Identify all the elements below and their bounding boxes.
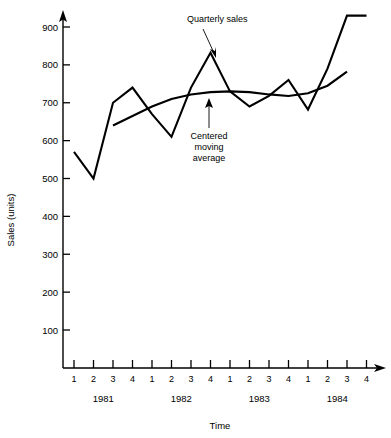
- x-tick-label-15: 4: [364, 374, 369, 384]
- x-axis-year-label-1983: 1983: [249, 393, 270, 404]
- series-line-centered-moving-average: [113, 72, 347, 126]
- y-axis-ticks: 100200300400500600700800900: [42, 22, 70, 336]
- y-tick-label-700: 700: [42, 97, 58, 108]
- x-axis-year-label-1984: 1984: [327, 393, 348, 404]
- x-axis-year-label-1981: 1981: [93, 393, 114, 404]
- y-tick-label-500: 500: [42, 173, 58, 184]
- x-axis-year-label-1982: 1982: [171, 393, 192, 404]
- x-tick-label-14: 3: [344, 374, 349, 384]
- x-tick-label-8: 1: [227, 374, 232, 384]
- annotation-quarterly-sales-leader: [203, 29, 214, 53]
- x-axis-title: Time: [210, 420, 231, 431]
- x-axis-ticks: 1234123412341234: [71, 360, 369, 384]
- x-tick-label-9: 2: [247, 374, 252, 384]
- x-tick-label-11: 4: [286, 374, 291, 384]
- sales-time-series-chart: 100200300400500600700800900 123412341234…: [0, 0, 391, 438]
- annotation-quarterly-sales: Quarterly sales: [187, 14, 248, 58]
- y-tick-label-800: 800: [42, 59, 58, 70]
- annotation-centered-moving-average: Centered moving average: [190, 98, 227, 163]
- y-tick-label-900: 900: [42, 22, 58, 33]
- y-tick-label-400: 400: [42, 211, 58, 222]
- x-axis-year-labels: 1981198219831984: [93, 393, 348, 404]
- annotation-cma-line-1: Centered: [190, 131, 227, 141]
- x-tick-label-13: 2: [325, 374, 330, 384]
- y-tick-label-300: 300: [42, 249, 58, 260]
- x-tick-label-6: 3: [188, 374, 193, 384]
- chart-container: 100200300400500600700800900 123412341234…: [0, 0, 391, 438]
- y-axis-title: Sales (units): [5, 194, 16, 247]
- x-tick-label-12: 1: [305, 374, 310, 384]
- y-axis: [59, 10, 67, 368]
- y-tick-label-200: 200: [42, 287, 58, 298]
- x-axis: [63, 364, 386, 372]
- annotation-cma-line-2: moving: [194, 142, 223, 152]
- x-tick-label-7: 4: [208, 374, 213, 384]
- annotation-cma-line-3: average: [193, 153, 226, 163]
- x-tick-label-10: 3: [266, 374, 271, 384]
- annotation-quarterly-sales-label: Quarterly sales: [187, 14, 248, 24]
- x-tick-label-1: 2: [91, 374, 96, 384]
- x-tick-label-2: 3: [110, 374, 115, 384]
- x-tick-label-3: 4: [130, 374, 135, 384]
- y-tick-label-100: 100: [42, 325, 58, 336]
- x-tick-label-5: 2: [169, 374, 174, 384]
- x-tick-label-4: 1: [149, 374, 154, 384]
- y-tick-label-600: 600: [42, 135, 58, 146]
- x-tick-label-0: 1: [71, 374, 76, 384]
